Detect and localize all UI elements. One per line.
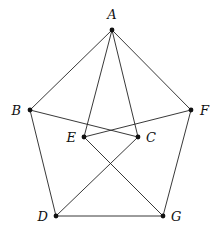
edge-c-d xyxy=(56,137,138,216)
node-e xyxy=(82,135,87,140)
edge-a-c xyxy=(112,30,138,137)
node-label-e: E xyxy=(66,130,77,145)
edge-f-e xyxy=(84,110,191,137)
edge-a-b xyxy=(30,30,112,110)
edge-b-d xyxy=(30,110,56,216)
node-b xyxy=(28,108,33,113)
graph-diagram: ABFECDG xyxy=(0,0,218,230)
node-label-f: F xyxy=(199,103,210,118)
node-label-g: G xyxy=(171,209,181,224)
labels-group: ABFECDG xyxy=(10,7,210,224)
node-c xyxy=(136,135,141,140)
node-a xyxy=(110,28,115,33)
edge-e-g xyxy=(84,137,163,216)
edges-group xyxy=(30,30,191,216)
node-d xyxy=(54,214,59,219)
edge-b-c xyxy=(30,110,138,137)
node-label-b: B xyxy=(10,103,21,118)
node-label-c: C xyxy=(146,130,156,145)
node-label-d: D xyxy=(37,209,49,224)
nodes-group xyxy=(28,28,194,219)
node-label-a: A xyxy=(106,7,116,22)
node-f xyxy=(189,108,194,113)
edge-a-e xyxy=(84,30,112,137)
node-g xyxy=(161,214,166,219)
edge-a-f xyxy=(112,30,191,110)
edge-f-g xyxy=(163,110,191,216)
